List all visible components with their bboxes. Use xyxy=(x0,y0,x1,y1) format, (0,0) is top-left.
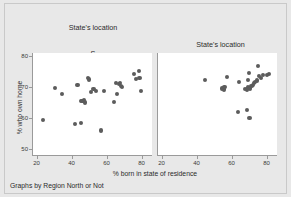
scatter-point xyxy=(255,78,259,82)
x-tick-label-left: 20 xyxy=(33,160,40,166)
figure-canvas: State's location S & W Based on Region S… xyxy=(0,0,291,197)
scatter-plot-panel-right xyxy=(158,53,277,155)
x-tick-left xyxy=(37,156,38,159)
scatter-point xyxy=(115,92,119,96)
x-tick-right xyxy=(267,156,268,159)
x-axis-line-right xyxy=(158,155,277,156)
scatter-point xyxy=(112,100,116,104)
x-tick-left xyxy=(107,156,108,159)
scatter-point xyxy=(79,121,83,125)
figure-footnote: Graphs by Region North or Not xyxy=(10,182,104,189)
panel-left-title-line-1: State's location xyxy=(33,24,153,33)
scatter-point xyxy=(137,76,141,80)
x-tick-label-left: 40 xyxy=(68,160,75,166)
scatter-point xyxy=(247,116,251,120)
x-tick-label-right: 40 xyxy=(193,160,200,166)
y-tick-label: 80 xyxy=(16,53,28,59)
x-tick-label-left: 60 xyxy=(103,160,110,166)
x-tick-label-right: 20 xyxy=(158,160,165,166)
x-tick-right xyxy=(197,156,198,159)
y-axis-line-right xyxy=(157,53,158,156)
y-tick-left xyxy=(29,56,32,57)
y-axis-line-left xyxy=(32,53,33,156)
x-tick-right xyxy=(232,156,233,159)
scatter-point xyxy=(60,92,64,96)
x-tick-left xyxy=(72,156,73,159)
x-axis-line-left xyxy=(33,155,152,156)
x-tick-label-right: 80 xyxy=(263,160,270,166)
scatter-point xyxy=(83,100,87,104)
scatter-point xyxy=(236,110,240,114)
y-axis-label: % who own home xyxy=(16,68,23,148)
x-axis-label: % born in state of residence xyxy=(33,170,277,177)
x-tick-right xyxy=(162,156,163,159)
scatter-point xyxy=(245,108,249,112)
y-tick-left xyxy=(29,149,32,150)
y-tick-left xyxy=(29,118,32,119)
scatter-point xyxy=(139,89,143,93)
panel-right-title-line-1: State's location xyxy=(158,41,283,50)
y-tick-left xyxy=(29,87,32,88)
x-tick-label-right: 60 xyxy=(228,160,235,166)
scatter-point xyxy=(73,122,77,126)
x-tick-label-left: 80 xyxy=(138,160,145,166)
scatter-point xyxy=(222,85,226,89)
x-tick-left xyxy=(142,156,143,159)
scatter-plot-panel-left xyxy=(33,53,152,155)
scatter-point xyxy=(99,128,103,132)
scatter-point xyxy=(75,83,79,87)
